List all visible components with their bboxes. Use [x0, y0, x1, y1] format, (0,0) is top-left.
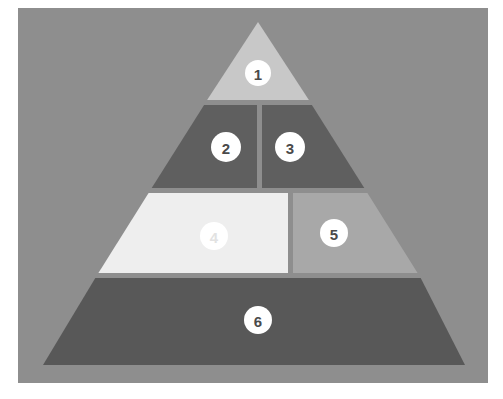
badge-3[interactable]: 3: [275, 132, 305, 162]
badge-5[interactable]: 5: [320, 219, 348, 247]
badge-2[interactable]: 2: [211, 132, 241, 162]
badge-1[interactable]: 1: [245, 60, 271, 86]
pyramid-segment-5[interactable]: [293, 193, 418, 273]
pyramid-diagram: 1 2 3 4 5 6: [0, 0, 503, 399]
badge-4[interactable]: 4: [200, 222, 228, 250]
badge-label-6: 6: [254, 313, 262, 330]
badge-label-4: 4: [210, 229, 219, 246]
diagram-canvas: 1 2 3 4 5 6: [0, 0, 503, 399]
badge-label-2: 2: [222, 140, 230, 157]
badge-label-3: 3: [286, 140, 294, 157]
pyramid-segment-2[interactable]: [152, 105, 257, 188]
badge-label-5: 5: [330, 226, 338, 243]
badge-label-1: 1: [254, 66, 262, 83]
badge-6[interactable]: 6: [244, 306, 272, 334]
pyramid-segment-4[interactable]: [98, 193, 288, 273]
